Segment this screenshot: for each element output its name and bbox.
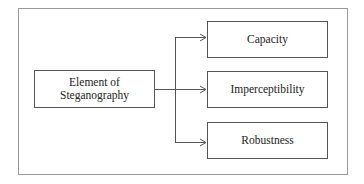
node-label-line2: Steganography: [60, 89, 129, 102]
node-label-line1: Element of: [60, 76, 129, 89]
node-label: Robustness: [241, 134, 293, 147]
node-label: Imperceptibility: [230, 83, 304, 96]
node-imperceptibility: Imperceptibility: [207, 71, 328, 108]
node-label: Capacity: [247, 33, 288, 46]
node-element-of-steganography: Element of Steganography: [34, 70, 155, 108]
node-robustness: Robustness: [207, 122, 328, 159]
node-capacity: Capacity: [207, 21, 328, 58]
